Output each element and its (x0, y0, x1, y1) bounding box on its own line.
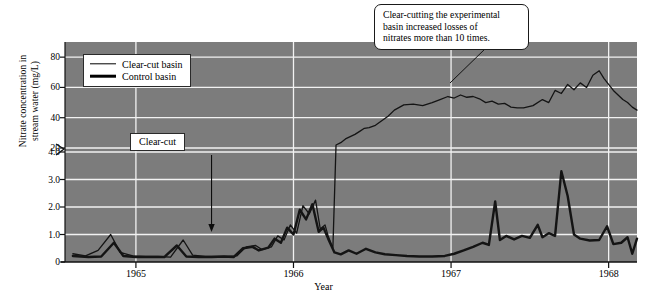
legend-line-swatch-thick-icon (90, 71, 116, 81)
chart-legend: Clear-cut basin Control basin (83, 54, 191, 87)
legend-label-control-basin: Control basin (122, 71, 176, 82)
callout-line-2: basin increased losses of (383, 21, 521, 33)
clear-cut-annotation-label: Clear-cut (130, 133, 185, 151)
plot-area (0, 0, 647, 304)
callout-line-3: nitrates more than 10 times. (383, 32, 521, 44)
y-axis-break-marker (56, 144, 64, 155)
legend-line-swatch-thin-icon (90, 59, 116, 69)
legend-label-clear-cut-basin: Clear-cut basin (122, 59, 183, 70)
legend-entry-clear-cut-basin: Clear-cut basin (90, 58, 183, 70)
chart-figure: Nitrate concentration in stream water (m… (0, 0, 647, 304)
main-callout-annotation: Clear-cutting the experimental basin inc… (374, 4, 529, 50)
callout-line-1: Clear-cutting the experimental (383, 9, 521, 21)
legend-entry-control-basin: Control basin (90, 70, 183, 82)
